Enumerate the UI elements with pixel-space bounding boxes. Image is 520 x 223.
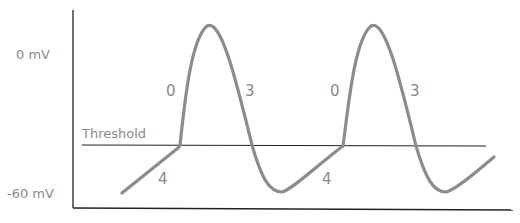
x-axis [73,208,513,210]
threshold-label: Threshold [82,126,146,141]
phase-4-label-cycle1: 4 [158,170,168,188]
y-label-0mv: 0 mV [16,47,50,62]
phase-3-label-cycle1: 3 [245,82,255,100]
phase-3-label-cycle2: 3 [410,82,420,100]
phase-0-label-cycle2: 0 [330,82,340,100]
action-potential-curve [122,25,494,193]
phase-0-label-cycle1: 0 [166,82,176,100]
action-potential-diagram [0,0,520,223]
threshold-line [82,145,486,146]
phase-4-label-cycle2: 4 [322,170,332,188]
y-label-neg60mv: -60 mV [7,186,54,201]
